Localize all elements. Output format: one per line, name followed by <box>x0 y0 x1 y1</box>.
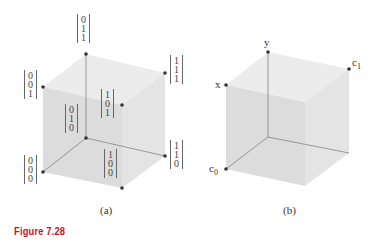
cube-diagrams <box>0 0 374 246</box>
vertex-label-000: 000 <box>24 155 37 184</box>
vertex-label-010: 010 <box>65 104 78 133</box>
vertex-label-101: 101 <box>101 89 114 118</box>
vertex-label-y: y <box>264 36 270 48</box>
vertex-label-110: 110 <box>170 140 183 169</box>
vertex-label-001: 001 <box>24 70 37 99</box>
vertex-label-c1: c1 <box>352 56 361 71</box>
figure-caption: Figure 7.28 <box>14 225 65 237</box>
cube-b <box>224 50 351 186</box>
vertex-label-011: 011 <box>77 14 90 43</box>
vertex-label-x: x <box>215 78 221 90</box>
vertex-label-c0: c0 <box>209 162 218 177</box>
panel-a-label: (a) <box>100 204 112 216</box>
vertex-label-111: 111 <box>170 55 183 84</box>
vertex-label-100: 100 <box>104 149 117 178</box>
panel-b-label: (b) <box>283 204 296 216</box>
